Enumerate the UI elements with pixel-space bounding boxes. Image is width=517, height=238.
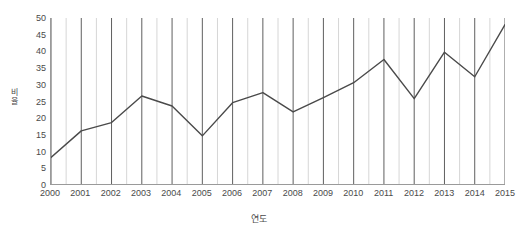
y-axis-tick-labels: 50454035302520151050 [24, 12, 46, 185]
gridlines [51, 18, 505, 184]
y-tick-label: 10 [24, 147, 46, 156]
y-tick-label: 30 [24, 80, 46, 89]
y-tick-label: 45 [24, 30, 46, 39]
y-axis-title-char-2: 율 [6, 97, 22, 106]
plot-svg [51, 18, 505, 184]
plot-area [50, 18, 505, 185]
y-tick-label: 25 [24, 97, 46, 106]
chart-title [0, 0, 517, 5]
x-tick-label: 2015 [485, 188, 517, 199]
y-axis-title: 비 율 [6, 88, 22, 106]
y-tick-label: 20 [24, 114, 46, 123]
y-tick-label: 5 [24, 164, 46, 173]
y-axis-title-char-1: 비 [6, 88, 22, 97]
line-chart: 비 율 50454035302520151050 200020012002200… [0, 0, 517, 238]
x-axis-tick-labels: 2000200120022003200420052006200720082009… [50, 188, 505, 202]
x-axis-title: 연도 [0, 212, 517, 225]
y-tick-label: 35 [24, 64, 46, 73]
y-tick-label: 15 [24, 130, 46, 139]
y-tick-label: 50 [24, 14, 46, 23]
y-tick-label: 40 [24, 47, 46, 56]
